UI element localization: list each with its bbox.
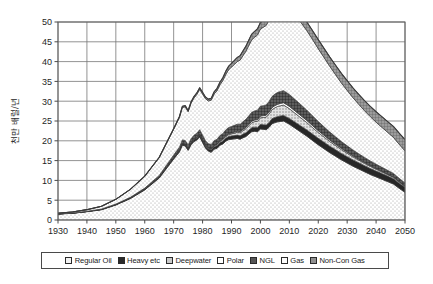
svg-text:10: 10 [42,176,52,186]
svg-text:50: 50 [42,17,52,27]
svg-text:1930: 1930 [48,226,68,236]
svg-text:1960: 1960 [135,226,155,236]
legend-swatch-icon [281,257,288,264]
svg-text:40: 40 [42,57,52,67]
legend-item-gas[interactable]: Gas [281,257,304,265]
legend-item-non-con-gas[interactable]: Non-Con Gas [310,257,365,265]
svg-text:25: 25 [42,116,52,126]
svg-text:2010: 2010 [279,226,299,236]
legend-swatch-icon [65,257,72,264]
svg-text:1980: 1980 [193,226,213,236]
legend-label: Polar [227,257,244,265]
svg-text:35: 35 [42,77,52,87]
legend-swatch-icon [310,257,317,264]
chart-legend: Regular OilHeavy etcDeepwaterPolarNGLGas… [41,252,389,269]
svg-text:2040: 2040 [366,226,386,236]
legend-swatch-icon [118,257,125,264]
legend-item-regular-oil[interactable]: Regular Oil [65,257,111,265]
x-axis-ticks: 1930194019501960197019801990200020102020… [48,220,415,236]
legend-label: Gas [290,257,304,265]
legend-label: Non-Con Gas [319,257,364,265]
legend-swatch-icon [217,257,224,264]
svg-text:천만 배럴/년: 천만 배럴/년 [10,98,20,144]
legend-item-deepwater[interactable]: Deepwater [166,257,211,265]
svg-text:30: 30 [42,97,52,107]
svg-text:2020: 2020 [308,226,328,236]
svg-text:20: 20 [42,136,52,146]
legend-swatch-icon [250,257,257,264]
svg-text:0: 0 [47,215,52,225]
legend-item-heavy-etc[interactable]: Heavy etc [118,257,160,265]
legend-label: Regular Oil [75,257,112,265]
legend-swatch-icon [166,257,173,264]
svg-text:45: 45 [42,37,52,47]
chart-figure: 05101520253035404550 1930194019501960197… [0,0,433,284]
svg-text:1990: 1990 [221,226,241,236]
svg-text:2000: 2000 [250,226,270,236]
svg-text:1950: 1950 [106,226,126,236]
legend-item-ngl[interactable]: NGL [250,257,275,265]
legend-label: NGL [260,257,275,265]
svg-text:5: 5 [47,196,52,206]
legend-label: Deepwater [175,257,211,265]
svg-text:2030: 2030 [337,226,357,236]
legend-label: Heavy etc [127,257,160,265]
y-axis-ticks: 05101520253035404550 [42,17,58,225]
svg-text:1940: 1940 [77,226,97,236]
stacked-area-chart: 05101520253035404550 1930194019501960197… [0,0,433,284]
svg-text:15: 15 [42,156,52,166]
svg-text:1970: 1970 [164,226,184,236]
y-axis-title: 천만 배럴/년 [10,98,20,144]
legend-item-polar[interactable]: Polar [217,257,244,265]
svg-text:2050: 2050 [395,226,415,236]
